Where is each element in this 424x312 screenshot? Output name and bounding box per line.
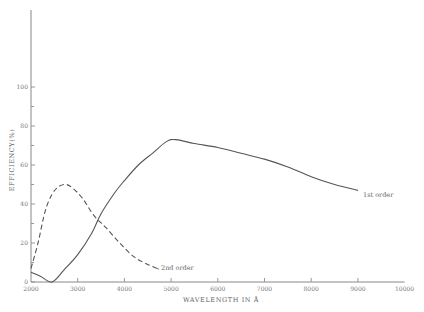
x-tick-label: 10000 xyxy=(395,285,414,292)
y-tick-label: 60 xyxy=(20,161,28,168)
y-tick-label: 100 xyxy=(17,83,29,90)
x-tick-label: 7000 xyxy=(257,285,272,292)
curve-1st-order xyxy=(31,139,358,282)
y-tick-label: 80 xyxy=(20,122,28,129)
x-tick-label: 8000 xyxy=(304,285,319,292)
y-tick-label: 40 xyxy=(20,200,28,207)
efficiency-chart: 020406080100 200030004000500060007000800… xyxy=(0,0,424,312)
y-tick-label: 0 xyxy=(24,278,28,285)
x-tick-label: 2000 xyxy=(23,285,38,292)
x-tick-label: 5000 xyxy=(163,285,178,292)
series-label-1st-order: 1st order xyxy=(363,191,394,199)
curves xyxy=(31,139,358,282)
x-tick-label: 6000 xyxy=(210,285,225,292)
x-tick-label: 9000 xyxy=(350,285,365,292)
x-axis-title: WAVELENGTH IN Å xyxy=(183,295,259,304)
x-tick-label: 4000 xyxy=(117,285,132,292)
x-tick-label: 3000 xyxy=(70,285,85,292)
y-axis-ticks: 020406080100 xyxy=(17,83,35,285)
y-axis-title: EFFICIENCY(%) xyxy=(8,129,16,192)
x-axis-ticks: 2000300040005000600070008000900010000 xyxy=(23,278,414,292)
series-label-2nd-order: 2nd order xyxy=(161,264,195,272)
label-leader xyxy=(157,268,159,269)
y-tick-label: 20 xyxy=(20,239,28,246)
curve-2nd-order xyxy=(31,184,157,268)
